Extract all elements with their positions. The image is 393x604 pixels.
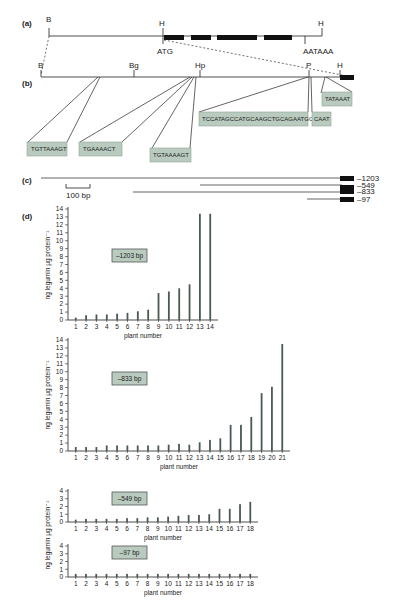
x-tick-label: 12 [186,323,194,330]
x-tick-label: 7 [136,323,140,330]
bar [188,445,190,451]
x-tick-label: 18 [247,525,255,532]
bar [116,574,118,577]
x-axis-label: plant number [124,332,163,340]
tata-box: TATAAAT [325,96,351,102]
x-tick-label: 12 [185,580,193,587]
exon-4 [264,35,292,40]
y-tick-label: 14 [56,336,64,343]
bar [219,438,221,451]
x-tick-label: 4 [105,454,109,461]
y-axis-label: ng legumin μg protein⁻¹ [44,230,52,300]
panel-a-gene-map: (a) B H H ATG AATAAA [22,15,352,77]
atg-label: ATG [157,47,173,56]
bar [239,574,241,577]
y-tick-label: 0 [59,447,63,454]
bar [116,519,118,522]
x-tick-label: 16 [227,454,235,461]
x-tick-label: 8 [146,580,150,587]
bar [147,310,149,320]
bar [208,514,210,522]
x-tick-label: 1 [74,323,78,330]
y-tick-label: 2 [59,558,63,565]
x-tick-label: 5 [115,323,119,330]
bar [229,509,231,522]
x-tick-label: 6 [125,525,129,532]
x-tick-label: 21 [279,454,287,461]
chart-title: –833 bp [118,375,142,383]
x-tick-label: 15 [216,525,224,532]
y-tick-label: 12 [56,221,64,228]
legumin-promoter-figure: (a) B H H ATG AATAAA (b) B Bg Hp P H [0,0,393,604]
y-tick-label: 10 [56,368,64,375]
bar [167,517,169,522]
x-tick-label: 3 [95,323,99,330]
y-tick-label: 7 [59,392,63,399]
site-label-b: B [46,15,51,24]
bar [239,504,241,522]
bar [168,445,170,451]
site-label-hp: Hp [195,61,206,70]
bar [198,574,200,577]
bar [178,444,180,451]
x-tick-label: 5 [115,454,119,461]
x-tick-label: 11 [175,580,182,587]
bar [249,574,251,577]
x-tick-label: 8 [146,525,150,532]
x-axis-label: plant number [160,463,199,471]
y-tick-label: 6 [59,269,63,276]
bar [209,214,211,320]
bar [158,293,160,320]
y-tick-label: 3 [59,550,63,557]
construct-label-97: –97 [357,195,371,204]
bar [188,574,190,577]
bar [167,574,169,577]
bar [199,442,201,451]
y-tick-label: 5 [59,277,63,284]
x-tick-label: 9 [156,580,160,587]
bar [188,515,190,522]
x-tick-label: 10 [165,323,173,330]
x-tick-label: 4 [105,323,109,330]
chart-title: –97 bp [120,549,140,557]
x-tick-label: 5 [115,525,119,532]
y-axis-label: ng legumin μg protein⁻¹ [44,360,52,430]
bar [75,574,77,577]
bar [157,574,159,577]
x-tick-label: 17 [236,525,244,532]
x-tick-label: 9 [156,525,160,532]
x-tick-label: 6 [126,323,130,330]
bar [96,314,98,320]
y-tick-label: 12 [56,352,64,359]
x-tick-label: 13 [195,580,203,587]
caat-box: CAAT [314,116,330,122]
chart-title: –1203 bp [116,252,143,260]
x-tick-label: 4 [105,525,109,532]
x-tick-label: 16 [226,580,234,587]
bar-chart-4: 01234123456789101112131415161718plant nu… [59,542,258,597]
y-axis-label: ng legumin μg protein⁻¹ [44,500,52,570]
x-tick-label: 1 [74,525,78,532]
bar [147,445,149,451]
bar [95,574,97,577]
panel-c-label: (c) [22,176,32,185]
bar [136,574,138,577]
y-tick-label: 7 [59,261,63,268]
x-tick-label: 7 [136,580,140,587]
y-tick-label: 0 [59,316,63,323]
x-tick-label: 18 [248,454,256,461]
bar [157,445,159,451]
bar [85,574,87,577]
bar [271,387,273,451]
site-label-p: P [306,61,311,70]
bar [126,574,128,577]
panel-d-label: (d) [22,212,33,221]
x-tick-label: 2 [84,580,88,587]
exon-1 [164,35,184,40]
y-tick-label: 3 [59,293,63,300]
bar [261,393,263,451]
bar [75,318,77,320]
x-tick-label: 7 [136,525,140,532]
bar [168,291,170,320]
exon-2 [191,35,211,40]
